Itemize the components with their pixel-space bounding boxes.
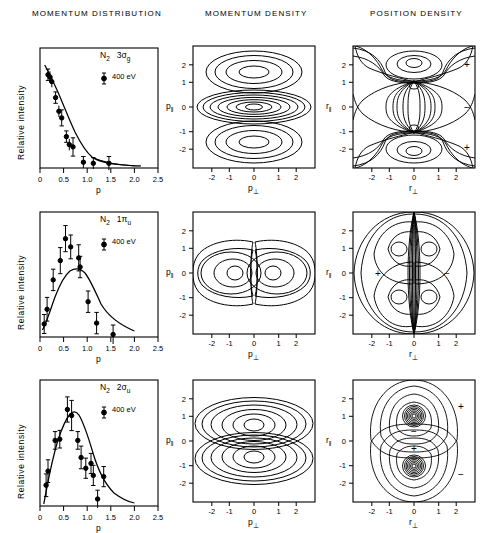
y-axis-tick-labels: 210 -1-2 — [339, 61, 346, 154]
svg-text:0: 0 — [252, 339, 256, 348]
orbital-subscript: u — [127, 387, 131, 394]
plot-frame — [40, 212, 158, 337]
svg-text:-2: -2 — [179, 145, 186, 154]
x-axis-tick-labels: -2-10 12 — [208, 339, 298, 348]
svg-text:1: 1 — [182, 244, 186, 253]
svg-text:1: 1 — [277, 173, 281, 182]
svg-text:-1: -1 — [386, 507, 393, 516]
y-axis-tick-labels: 210 -1-2 — [179, 61, 186, 154]
svg-text:-1: -1 — [179, 127, 186, 136]
svg-text:2: 2 — [182, 227, 186, 236]
svg-text:−: − — [444, 268, 450, 279]
svg-text:−: − — [464, 102, 470, 113]
svg-text:0: 0 — [182, 437, 186, 446]
svg-text:2: 2 — [342, 61, 346, 70]
svg-text:-1: -1 — [339, 293, 346, 302]
svg-text:-1: -1 — [386, 339, 393, 348]
svg-text:0: 0 — [252, 173, 256, 182]
svg-text:0.5: 0.5 — [58, 344, 68, 353]
svg-text:0: 0 — [412, 173, 416, 182]
svg-text:+: + — [375, 268, 381, 279]
y-axis-tick-labels: 210 -1-2 — [339, 227, 346, 320]
figure-root: MOMENTUM DISTRIBUTION MOMENTUM DENSITY P… — [0, 0, 492, 533]
x-axis-tick-labels: 00.51.0 1.52.02.5 — [38, 175, 163, 184]
x-axis-label-subscript: ⊥ — [253, 354, 259, 361]
svg-text:2.0: 2.0 — [129, 513, 139, 522]
svg-text:2: 2 — [182, 395, 186, 404]
orbital-symbol: 3σ — [117, 50, 127, 60]
y-axis-label-subscript: ‖ — [329, 106, 332, 113]
svg-text:2: 2 — [182, 61, 186, 70]
svg-text:1: 1 — [277, 339, 281, 348]
panel-momentum-distribution-3sg: 00.51.0 1.52.02.5 — [0, 20, 170, 185]
svg-text:0: 0 — [182, 103, 186, 112]
panel-position-density-3sg: -2-10 12 210 -1-2 — [325, 20, 492, 185]
column-title-momentum-density: MOMENTUM DENSITY — [205, 9, 308, 18]
svg-text:0: 0 — [342, 269, 346, 278]
svg-text:1: 1 — [342, 412, 346, 421]
y-axis-label-relative-intensity-row1: Relative intensity — [16, 85, 26, 160]
x-axis-tick-labels: -2-10 12 — [208, 173, 298, 182]
momentum-density-1piu-svg: -2-10 12 210 -1-2 — [165, 192, 330, 357]
svg-text:-2: -2 — [208, 339, 215, 348]
column-title-position-density: POSITION DENSITY — [370, 9, 463, 18]
svg-text:-2: -2 — [368, 339, 375, 348]
y-axis-label-p-parallel-row2: p‖ — [166, 267, 173, 279]
svg-text:2: 2 — [294, 507, 298, 516]
x-axis-tick-labels: -2-10 12 — [368, 339, 458, 348]
x-axis-tick-labels: -2-10 12 — [368, 507, 458, 516]
molecule-subscript: 2 — [106, 387, 110, 394]
position-density-3sg-svg: -2-10 12 210 -1-2 — [325, 20, 492, 185]
svg-text:-2: -2 — [208, 173, 215, 182]
annotation-energy-1piu: 400 eV — [112, 237, 136, 246]
panel-position-density-1piu: -2-10 12 210 -1-2 — [325, 192, 492, 357]
svg-text:+: + — [464, 142, 470, 153]
plot-frame — [40, 48, 158, 168]
svg-text:1.0: 1.0 — [82, 344, 92, 353]
y-axis-tick-labels: 210 -1-2 — [179, 227, 186, 320]
svg-text:0: 0 — [38, 175, 42, 184]
svg-text:-2: -2 — [339, 311, 346, 320]
svg-text:-1: -1 — [179, 461, 186, 470]
svg-text:-2: -2 — [368, 507, 375, 516]
svg-text:2.5: 2.5 — [153, 175, 163, 184]
panel-momentum-distribution-1piu: 00.51.0 1.52.02.5 — [0, 192, 170, 357]
orbital-subscript: g — [127, 55, 131, 62]
svg-text:1: 1 — [182, 78, 186, 87]
x-axis-ticks — [40, 337, 158, 342]
svg-text:2.0: 2.0 — [129, 344, 139, 353]
plot-frame — [193, 212, 315, 334]
panel-momentum-distribution-2su: 00.51.0 1.52.02.5 — [0, 362, 170, 533]
momentum-density-2su-svg: -2-10 12 210 -1-2 — [165, 362, 330, 533]
y-axis-label-subscript: ‖ — [171, 272, 174, 279]
annotation-molecule-orbital-1piu: N2 1πu — [100, 214, 131, 226]
svg-text:1.0: 1.0 — [82, 175, 92, 184]
svg-text:+: + — [464, 59, 470, 70]
svg-text:-1: -1 — [386, 173, 393, 182]
orbital-symbol: 1π — [117, 214, 128, 224]
svg-text:-2: -2 — [339, 479, 346, 488]
svg-text:2.0: 2.0 — [129, 175, 139, 184]
svg-text:0.5: 0.5 — [58, 513, 68, 522]
svg-text:1: 1 — [342, 244, 346, 253]
molecule-subscript: 2 — [106, 55, 110, 62]
x-axis-tick-labels: 00.51.0 1.52.02.5 — [38, 344, 163, 353]
svg-text:1: 1 — [437, 339, 441, 348]
svg-text:1.0: 1.0 — [82, 513, 92, 522]
x-axis-label-subscript: ⊥ — [412, 522, 418, 529]
x-axis-ticks — [40, 506, 158, 511]
x-axis-tick-labels: 00.51.0 1.52.02.5 — [38, 513, 163, 522]
column-title-momentum-distribution: MOMENTUM DISTRIBUTION — [32, 9, 162, 18]
y-axis-label-p-parallel-row3: p‖ — [166, 435, 173, 447]
panel-momentum-density-1piu: -2-10 12 210 -1-2 — [165, 192, 330, 357]
y-axis-label-subscript: ‖ — [171, 106, 174, 113]
svg-text:1: 1 — [277, 507, 281, 516]
panel-momentum-density-3sg: -2-10 12 210 -1-2 — [165, 20, 330, 185]
svg-text:1.5: 1.5 — [106, 513, 116, 522]
molecule-subscript: 2 — [106, 219, 110, 226]
svg-text:2: 2 — [294, 339, 298, 348]
svg-text:0: 0 — [252, 507, 256, 516]
x-axis-label-subscript: ⊥ — [253, 522, 259, 529]
y-axis-label-subscript: ‖ — [329, 272, 332, 279]
x-axis-tick-labels: -2-10 12 — [208, 507, 298, 516]
